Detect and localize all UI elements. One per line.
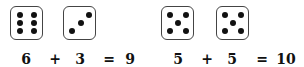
pip [78, 20, 84, 26]
pip [17, 20, 23, 26]
sum: 10 [276, 51, 295, 67]
pip [31, 12, 37, 18]
pip [17, 28, 23, 34]
pip [238, 28, 244, 34]
pip [86, 12, 92, 18]
die-five [161, 6, 194, 40]
pip [167, 12, 173, 18]
pip [222, 12, 228, 18]
pip [31, 20, 37, 26]
pip [230, 20, 236, 26]
pip [31, 28, 37, 34]
addend-2: 5 [227, 51, 237, 67]
plus-sign: + [49, 51, 61, 67]
pip [167, 28, 173, 34]
sum: 9 [125, 51, 135, 67]
plus-sign: + [201, 51, 213, 67]
pip [175, 20, 181, 26]
die-six [10, 6, 43, 40]
pip [69, 28, 75, 34]
pip [238, 12, 244, 18]
equals-sign: = [256, 51, 268, 67]
equals-sign: = [103, 51, 115, 67]
addend-2: 3 [75, 51, 85, 67]
pip [183, 12, 189, 18]
pip [17, 12, 23, 18]
addend-1: 5 [173, 51, 183, 67]
pip [183, 28, 189, 34]
die-five [216, 6, 249, 40]
die-three [63, 6, 96, 40]
addend-1: 6 [21, 51, 31, 67]
pip [222, 28, 228, 34]
